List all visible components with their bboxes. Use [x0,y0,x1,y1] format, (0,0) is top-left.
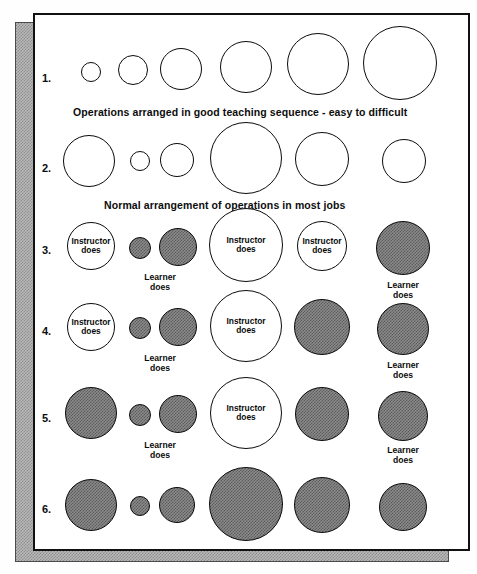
circle-r5-c6-filled [378,391,428,441]
circle-r1-c5-open [287,33,349,95]
circle-r6-c2-filled [130,496,150,516]
row-number-2: 2. [42,162,51,174]
row-number-3: 3. [42,244,51,256]
circle-r6-c5-filled [294,477,350,533]
row-number-4: 4. [42,325,51,337]
circle-r2-c5-open [295,132,349,186]
circle-r3-c5-open: Instructordoes [297,221,347,271]
circle-r4-c5-filled [294,299,350,355]
circle-r4-c2-filled [129,317,151,339]
circle-r1-c6-open [363,26,437,100]
circle-r2-c2-open [130,151,150,171]
learner-does-label-r4-2: Learnerdoes [387,361,419,380]
circle-r2-c3-open [160,143,194,177]
learner-does-label-r4-1: Learnerdoes [144,354,176,373]
circle-r1-c4-open [220,41,272,93]
circle-r4-c1-open: Instructordoes [67,303,115,351]
caption-row-2: Normal arrangement of operations in most… [104,199,345,211]
learner-does-label-r3-1: Learnerdoes [144,273,176,292]
circle-r2-c4-open [210,122,282,194]
row-number-5: 5. [42,412,51,424]
circle-r6-c4-filled [209,467,283,541]
circle-r3-c3-filled [159,228,197,266]
caption-row-1: Operations arranged in good teaching seq… [73,106,407,118]
circle-r3-c1-open: Instructordoes [67,222,115,270]
circle-r3-c4-open: Instructordoes [209,208,283,282]
row-number-6: 6. [42,503,51,515]
circle-r3-c6-filled [376,221,430,275]
circle-r4-c6-filled [377,303,429,355]
learner-does-label-r3-2: Learnerdoes [387,281,419,300]
circle-r4-c4-open: Instructordoes [210,290,282,362]
instructor-does-label: Instructordoes [226,236,265,255]
circle-r1-c1-open [81,62,101,82]
circle-r2-c6-open [382,139,426,183]
circle-r5-c3-filled [159,395,197,433]
circle-r5-c2-filled [129,404,151,426]
learner-does-label-r5-2: Learnerdoes [387,446,419,465]
instructor-does-label: Instructordoes [302,237,341,256]
circle-r6-c3-filled [159,487,195,523]
circle-r3-c2-filled [129,237,151,259]
circle-r5-c5-filled [295,387,349,441]
circle-r4-c3-filled [159,308,197,346]
row-number-1: 1. [42,72,51,84]
instructor-does-label: Instructordoes [71,237,110,256]
learner-does-label-r5-1: Learnerdoes [144,441,176,460]
diagram-page: 1.Operations arranged in good teaching s… [33,13,470,551]
instructor-does-label: Instructordoes [226,317,265,336]
diagram-root: 1.Operations arranged in good teaching s… [0,0,477,574]
circle-r2-c1-open [63,135,115,187]
circle-r6-c6-filled [379,483,427,531]
circle-r5-c1-filled [65,387,117,439]
instructor-does-label: Instructordoes [71,318,110,337]
circle-r6-c1-filled [65,479,117,531]
circle-r1-c2-open [118,55,148,85]
circle-r1-c3-open [160,48,202,90]
instructor-does-label: Instructordoes [226,404,265,423]
circle-r5-c4-open: Instructordoes [210,377,282,449]
